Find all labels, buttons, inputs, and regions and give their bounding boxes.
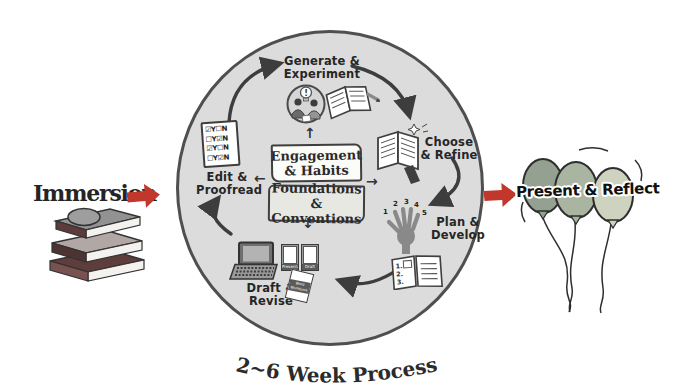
balloons-icon [519,144,651,314]
idea-notebook-pencil-icon [322,80,380,120]
diagram-canvas: Generate & Experiment Choose & Refine Pl… [0,0,684,392]
folder-label: Draft [302,264,318,270]
mini-arrow-up-icon: ↑ [304,126,316,140]
caption-text: 2~6 Week Process [234,352,439,388]
folder-icon: Draft [301,244,319,271]
laptop-icon [229,241,281,281]
stage-label-plan-develop: Plan & Develop [430,216,486,241]
engagement-habits-box: Engagement & Habits [271,143,363,182]
finger-number: 3 [404,198,409,206]
week-process-caption: 2~6 Week Process [205,333,475,391]
finger-number: 2 [393,200,398,208]
finger-number: 4 [414,201,419,209]
workbook-label: Word Workbook [288,279,311,294]
mini-arrow-left-icon: ← [254,171,266,185]
list-number: 3. [396,278,404,286]
mini-arrow-down-icon: ↓ [302,216,314,230]
plan-notebook-icon: 1. 2. 3. [389,252,445,290]
counting-hand-icon: 1 2 3 4 5 [382,198,432,254]
paper-icon [303,246,317,264]
paper-icon [283,246,297,264]
brainstorm-people-icon: ! [286,83,326,124]
magnifier-lens-icon [68,209,100,226]
stage-label-generate-experiment: Generate & Experiment [272,55,372,80]
lightbulb-mark: ! [304,89,308,98]
stage-label-edit-proofread: Edit & Proofread [196,171,258,196]
star-icon [408,124,420,135]
finger-number: 1 [383,208,388,216]
yes-no-checklist-icon: ☑Y☐N ☐Y☑N ☑Y☐N ☐Y☑N [200,120,240,168]
foundations-conventions-box: Foundations & Conventions [268,184,365,222]
finger-number: 5 [422,209,427,217]
checklist-row: ☐Y☑N [207,152,239,164]
svg-text:2~6 Week Process: 2~6 Week Process [234,352,439,388]
book-stack-icon [40,203,164,287]
draft-folders: Presentation Draft [281,244,319,271]
present-arrow-icon [483,181,518,209]
folder-icon: Presentation [281,244,299,271]
choose-book-icon [376,123,430,187]
